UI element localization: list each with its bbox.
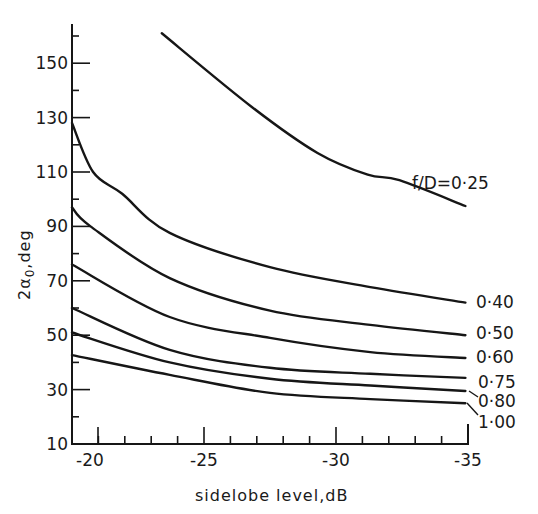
curve-fd-050 [72,207,465,335]
x-tick-label: -25 [190,450,218,470]
y-tick-label: 110 [36,162,68,182]
x-axis-label: sidelobe level,dB [195,486,348,505]
y-tick-label: 50 [46,325,68,345]
x-tick-label: -20 [76,450,104,470]
y-tick-label: 30 [46,380,68,400]
curve-label: f/D=0·25 [412,173,489,193]
curve-label: 0·40 [476,292,514,312]
y-axis-label-sub: 0 [23,269,37,278]
y-axis-label-main: 2α [15,277,34,300]
y-tick-label: 10 [46,434,68,454]
curve-label: 0·80 [478,391,516,411]
y-axis-label-tail: ,deg [15,229,34,268]
y-tick-label: 150 [36,53,68,73]
curve-label: 0·60 [476,347,514,367]
y-axis-ticks: 1030507090110130150 [36,36,90,454]
leader-line [467,403,478,415]
leader-line [469,391,478,397]
y-tick-label: 130 [36,108,68,128]
curve-label: 0·50 [476,323,514,343]
x-axis-ticks: -20-25-30-35 [76,427,482,470]
x-tick-label: -30 [322,450,350,470]
chart: 1030507090110130150 -20-25-30-35 f/D=0·2… [0,0,538,514]
curve-fd-040 [72,123,465,303]
axes [72,25,468,444]
y-tick-label: 90 [46,216,68,236]
curve-label: 0·75 [478,372,516,392]
y-tick-label: 70 [46,271,68,291]
x-tick-label: -35 [454,450,482,470]
y-axis-label: 2α0,deg [15,229,37,300]
curve-label: 1·00 [478,412,516,432]
curve-fd-080 [72,333,465,392]
axis-lines [72,25,468,444]
curves [72,33,465,403]
